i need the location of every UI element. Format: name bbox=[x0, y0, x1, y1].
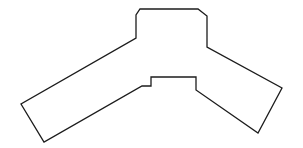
polygon-outline bbox=[21, 9, 282, 142]
boomerang-outline-shape bbox=[0, 0, 303, 148]
drawing-canvas bbox=[0, 0, 303, 148]
